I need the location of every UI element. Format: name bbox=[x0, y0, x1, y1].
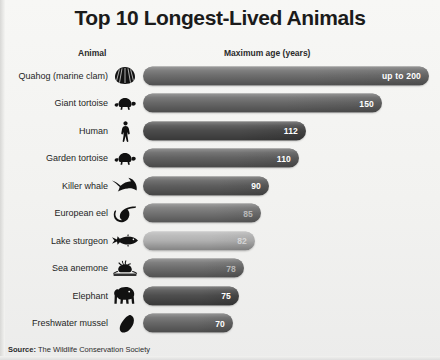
bar: 70 bbox=[143, 314, 233, 333]
bar: 110 bbox=[143, 149, 299, 168]
bar: 85 bbox=[143, 204, 261, 223]
bar: 90 bbox=[143, 176, 269, 195]
tortoise-icon bbox=[111, 147, 139, 169]
sturgeon-icon bbox=[111, 230, 139, 252]
bar-value-label: 85 bbox=[243, 208, 253, 218]
source-label: Source: bbox=[8, 345, 36, 354]
bar-track: 70 bbox=[143, 314, 233, 333]
mussel-icon bbox=[111, 312, 139, 334]
bar-track: 150 bbox=[143, 94, 382, 113]
animal-label: Sea anemone bbox=[0, 263, 108, 273]
animal-label: Freshwater mussel bbox=[0, 318, 108, 328]
bar: 150 bbox=[143, 94, 382, 113]
bar-track: 75 bbox=[143, 286, 239, 305]
chart-row: Lake sturgeon82 bbox=[0, 227, 440, 255]
page-edge-bottom bbox=[0, 356, 440, 360]
animal-label: European eel bbox=[0, 208, 108, 218]
bar-value-label: 70 bbox=[215, 318, 225, 328]
animal-label: Lake sturgeon bbox=[0, 236, 108, 246]
infographic-canvas: Top 10 Longest-Lived Animals Animal Maxi… bbox=[0, 0, 440, 360]
eel-icon bbox=[111, 202, 139, 224]
page-title: Top 10 Longest-Lived Animals bbox=[0, 6, 440, 30]
bar-track: 110 bbox=[143, 149, 299, 168]
bar: 112 bbox=[143, 121, 306, 140]
bar: 75 bbox=[143, 286, 239, 305]
column-header-max-age: Maximum age (years) bbox=[224, 48, 310, 58]
anemone-icon bbox=[111, 257, 139, 279]
orca-icon bbox=[111, 175, 139, 197]
page-edge-left bbox=[0, 0, 5, 360]
human-icon bbox=[111, 120, 139, 142]
clam-icon bbox=[111, 65, 139, 87]
bar-value-label: 82 bbox=[237, 236, 247, 246]
chart-row: European eel85 bbox=[0, 200, 440, 228]
chart-row: Quahog (marine clam)up to 200 bbox=[0, 62, 440, 90]
column-header-animal: Animal bbox=[78, 48, 106, 58]
bar-value-label: up to 200 bbox=[382, 71, 421, 81]
animal-label: Giant tortoise bbox=[0, 98, 108, 108]
bar-value-label: 112 bbox=[284, 126, 298, 136]
bar-value-label: 78 bbox=[226, 263, 236, 273]
source-credit: Source: The Wildlife Conservation Societ… bbox=[8, 345, 150, 354]
bar: 82 bbox=[143, 231, 255, 250]
tortoise-icon bbox=[111, 92, 139, 114]
chart-row: Killer whale90 bbox=[0, 172, 440, 200]
bar: 78 bbox=[143, 259, 244, 278]
bar-value-label: 110 bbox=[277, 153, 291, 163]
chart-rows: Quahog (marine clam)up to 200Giant torto… bbox=[0, 62, 440, 337]
chart-row: Human112 bbox=[0, 117, 440, 145]
bar-track: 82 bbox=[143, 231, 255, 250]
chart-row: Sea anemone78 bbox=[0, 255, 440, 283]
bar-track: 85 bbox=[143, 204, 261, 223]
bar-track: 90 bbox=[143, 176, 269, 195]
chart-row: Elephant75 bbox=[0, 282, 440, 310]
chart-row: Freshwater mussel70 bbox=[0, 310, 440, 338]
animal-label: Garden tortoise bbox=[0, 153, 108, 163]
bar-value-label: 150 bbox=[359, 98, 374, 108]
bar-track: up to 200 bbox=[143, 66, 429, 85]
elephant-icon bbox=[111, 285, 139, 307]
chart-row: Giant tortoise150 bbox=[0, 90, 440, 118]
animal-label: Elephant bbox=[0, 291, 108, 301]
chart-row: Garden tortoise110 bbox=[0, 145, 440, 173]
bar-track: 112 bbox=[143, 121, 306, 140]
bar-track: 78 bbox=[143, 259, 244, 278]
source-text: The Wildlife Conservation Society bbox=[36, 345, 150, 354]
animal-label: Quahog (marine clam) bbox=[0, 71, 108, 81]
bar-value-label: 90 bbox=[251, 181, 261, 191]
animal-label: Killer whale bbox=[0, 181, 108, 191]
bar-value-label: 75 bbox=[221, 291, 231, 301]
bar: up to 200 bbox=[143, 66, 429, 85]
animal-label: Human bbox=[0, 126, 108, 136]
